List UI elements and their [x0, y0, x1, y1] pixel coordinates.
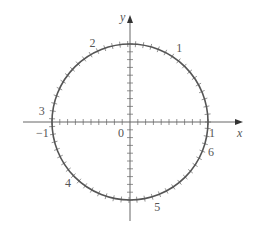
arc-label-6: 6 — [208, 145, 214, 159]
arc-label-5: 5 — [154, 200, 160, 214]
y-axis-label: y — [119, 10, 126, 24]
arc-label-3: 3 — [39, 104, 45, 118]
x-pos-one-label: 1 — [209, 126, 215, 140]
arc-label-4: 4 — [65, 176, 71, 190]
origin-label: 0 — [118, 126, 124, 140]
arc-length-labels: 123456 — [39, 36, 214, 214]
arc-label-2: 2 — [90, 36, 96, 50]
figure-canvas: x y 0 −1 1 123456 — [0, 0, 256, 231]
x-neg-one-label: −1 — [36, 126, 49, 140]
arc-label-1: 1 — [176, 41, 182, 55]
x-axis-label: x — [236, 126, 243, 140]
x-axis-arrow-icon — [235, 119, 243, 125]
unit-circle-figure: x y 0 −1 1 123456 — [0, 0, 256, 231]
y-axis-arrow-icon — [127, 15, 133, 23]
